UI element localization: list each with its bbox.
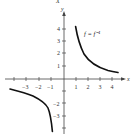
- x-tick-label: 2: [87, 84, 90, 90]
- y-tick-label: −3: [53, 113, 59, 119]
- panel-label: X: [55, 0, 60, 4]
- x-tick-label: −2: [35, 84, 41, 90]
- x-tick-label: −1: [47, 84, 53, 90]
- y-tick-label: 2: [57, 50, 60, 56]
- x-tick-label: 1: [75, 84, 78, 90]
- x-tick-label: 4: [111, 84, 114, 90]
- x-axis-arrow-icon: [121, 77, 126, 81]
- x-axis-label: x: [126, 76, 130, 82]
- y-axis-label: y: [60, 6, 64, 12]
- y-tick-label: −2: [53, 101, 59, 107]
- y-tick-label: 4: [57, 26, 60, 32]
- y-tick-label: 1: [57, 63, 60, 69]
- curve-label: f = f⁻¹: [84, 30, 100, 37]
- curve-negative-branch: [10, 89, 52, 132]
- x-tick-label: 3: [99, 84, 102, 90]
- y-tick-label: 3: [57, 38, 60, 44]
- inverse-function-graph: X y x −3 −2 −1 1 2 3 4 4 3 2 1 −2 −3: [0, 0, 132, 134]
- x-tick-label: −3: [22, 84, 28, 90]
